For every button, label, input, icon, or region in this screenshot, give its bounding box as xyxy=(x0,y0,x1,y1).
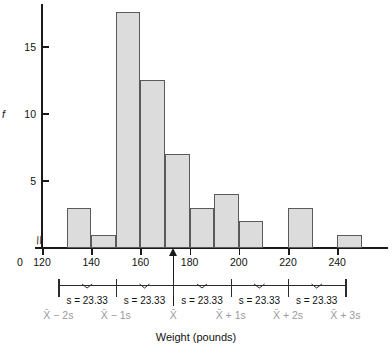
histogram-figure: // 15 10 5 f 0 120 140 160 180 200 220 2… xyxy=(0,0,392,353)
bar-220-230 xyxy=(288,208,313,248)
sd-segment-label-4: s = 23.33 xyxy=(229,295,289,306)
bar-240-250 xyxy=(337,235,362,248)
y-axis-line xyxy=(41,4,43,248)
y-tick-label-5: 5 xyxy=(14,175,36,187)
x-tick-label-0: 0 xyxy=(9,256,31,268)
bar-200-210 xyxy=(239,221,264,248)
y-tick-15 xyxy=(41,46,49,48)
x-tick-label-200: 200 xyxy=(228,256,250,268)
y-tick-5 xyxy=(41,180,49,182)
x-tick-label-220: 220 xyxy=(277,256,299,268)
x-tick-220 xyxy=(288,248,290,255)
x-tick-140 xyxy=(91,248,93,255)
bar-140-150 xyxy=(91,235,116,248)
y-tick-label-10: 10 xyxy=(14,108,36,120)
mean-arrow-head xyxy=(169,248,177,256)
sd-segment-label-3: s = 23.33 xyxy=(172,295,232,306)
bar-170-180 xyxy=(165,154,190,248)
sd-segment-label-5: s = 23.33 xyxy=(287,295,347,306)
x-axis-title: Weight (pounds) xyxy=(0,331,392,343)
bar-180-190 xyxy=(190,208,215,248)
x-tick-label-180: 180 xyxy=(179,256,201,268)
x-tick-180 xyxy=(190,248,192,255)
y-tick-10 xyxy=(41,113,49,115)
sd-boundary-label-plus3s: X̄ + 3s xyxy=(315,309,375,321)
bar-160-170 xyxy=(140,80,165,248)
sd-boundary-label-plus2s: X̄ + 2s xyxy=(258,309,318,321)
bar-150-160 xyxy=(116,12,141,248)
y-tick-label-15: 15 xyxy=(14,41,36,53)
sd-brace-marks xyxy=(0,283,392,295)
x-tick-label-240: 240 xyxy=(326,256,348,268)
sd-boundary-label-minus2s: X̄ − 2s xyxy=(28,309,88,321)
x-tick-160 xyxy=(140,248,142,255)
x-tick-200 xyxy=(239,248,241,255)
sd-boundary-label-plus1s: X̄ + 1s xyxy=(201,309,261,321)
x-tick-label-120: 120 xyxy=(31,256,53,268)
sd-boundary-label-mean: X̄ xyxy=(143,309,203,321)
sd-segment-label-1: s = 23.33 xyxy=(57,295,117,306)
y-axis-title: f xyxy=(2,108,5,120)
bar-190-200 xyxy=(214,194,239,248)
sd-boundary-label-minus1s: X̄ − 1s xyxy=(86,309,146,321)
x-tick-label-160: 160 xyxy=(129,256,151,268)
sd-segment-label-2: s = 23.33 xyxy=(115,295,175,306)
bar-130-140 xyxy=(67,208,92,248)
x-tick-label-140: 140 xyxy=(80,256,102,268)
x-tick-120 xyxy=(42,248,44,255)
x-tick-240 xyxy=(337,248,339,255)
